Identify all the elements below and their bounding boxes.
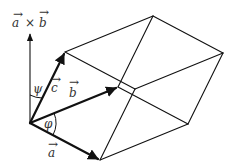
angle-phi-arc bbox=[53, 113, 56, 135]
cross-product-label: a → × b → bbox=[12, 5, 49, 30]
edge-b-to-ab bbox=[118, 87, 188, 124]
parallelepiped-diagram: a → × b → ψ c → b → φ a → bbox=[0, 0, 234, 168]
cross-label-b-arrow: → bbox=[39, 5, 49, 19]
edge-ac-to-a bbox=[100, 89, 135, 160]
c-label-arrow: → bbox=[51, 72, 61, 86]
edge-ab-to-a bbox=[100, 124, 188, 160]
edge-ac-to-abc bbox=[135, 53, 223, 89]
cross-label-a-arrow: → bbox=[13, 7, 23, 21]
edge-bc-to-abc bbox=[153, 16, 223, 53]
vector-a bbox=[30, 123, 98, 159]
phi-label: φ bbox=[44, 117, 53, 131]
edge-abc-to-ab bbox=[188, 53, 223, 124]
edge-b-to-bc bbox=[118, 16, 153, 87]
cross-label-times: × bbox=[25, 16, 35, 30]
b-label-arrow: → bbox=[69, 75, 79, 89]
parallelepiped-edges bbox=[65, 16, 223, 160]
psi-label: ψ bbox=[33, 82, 43, 96]
edge-c-to-bc bbox=[65, 16, 153, 52]
a-label-arrow: → bbox=[48, 137, 58, 151]
